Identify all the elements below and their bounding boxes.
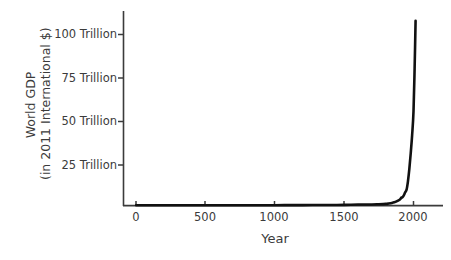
x-tick-label-1000: 1000 — [259, 210, 288, 224]
y-tick-label-75-trillion: 75 Trillion — [53, 71, 117, 85]
world-gdp-line — [136, 21, 415, 205]
y-axis-title-line-2: (in 2011 International $) — [38, 30, 53, 180]
x-axis-title: Year — [225, 231, 325, 246]
x-tick-label-500: 500 — [194, 210, 216, 224]
x-tick-label-0: 0 — [132, 210, 139, 224]
y-axis-ticks — [118, 35, 124, 166]
x-tick-label-2000: 2000 — [398, 210, 427, 224]
x-tick-label-1500: 1500 — [329, 210, 358, 224]
y-axis-title-line-1: World GDP — [23, 30, 38, 180]
y-tick-label-25-trillion: 25 Trillion — [53, 158, 117, 172]
chart-figure: World GDP (in 2011 International $) 100 … — [0, 0, 451, 260]
y-axis-title: World GDP (in 2011 International $) — [23, 30, 53, 180]
y-tick-label-50-trillion: 50 Trillion — [53, 114, 117, 128]
axis-spines — [123, 11, 443, 206]
y-tick-label-100-trillion: 100 Trillion — [53, 27, 117, 41]
